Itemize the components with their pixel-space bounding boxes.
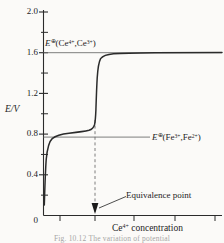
fe-label-close: ) xyxy=(198,132,201,142)
fe-standard-potential-label: E⊕(Fe3+,Fe2+) xyxy=(152,132,201,142)
y-axis-title: E/V xyxy=(5,105,19,115)
ce-label-open: (Ce xyxy=(56,38,69,48)
y-tick-label-1-6: 1.6 xyxy=(14,48,38,57)
x-axis-title: Ce4+ concentration xyxy=(112,224,183,234)
x-axis-title-post: concentration xyxy=(129,223,183,233)
equivalence-point-arrowhead xyxy=(92,203,99,214)
ce-standard-potential-label: E⊕(Ce4+,Ce3+) xyxy=(45,38,96,48)
figure-caption: Fig. 10.12 The variation of potential xyxy=(0,234,224,243)
equivalence-leader-line xyxy=(99,197,126,209)
y-tick-label-0-8: 0.8 xyxy=(14,129,38,138)
ce-label-comma: ,Ce xyxy=(74,38,86,48)
fe-label-open: (Fe xyxy=(163,132,175,142)
y-tick-label-0-4: 0.4 xyxy=(14,170,38,179)
fe-label-comma: ,Fe xyxy=(180,132,191,142)
y-tick-label-2-0: 2.0 xyxy=(14,7,38,16)
x-ticks xyxy=(60,216,215,222)
y-minor-ticks xyxy=(41,32,48,195)
equivalence-point-label: Equivalence point xyxy=(126,191,191,200)
titration-curve-path xyxy=(44,52,222,205)
x-axis-title-pre: Ce xyxy=(112,223,123,233)
y-tick-label-1-2: 1.2 xyxy=(14,89,38,98)
y-tick-label-0: 0 xyxy=(22,216,38,225)
ce-label-close: ) xyxy=(93,38,96,48)
